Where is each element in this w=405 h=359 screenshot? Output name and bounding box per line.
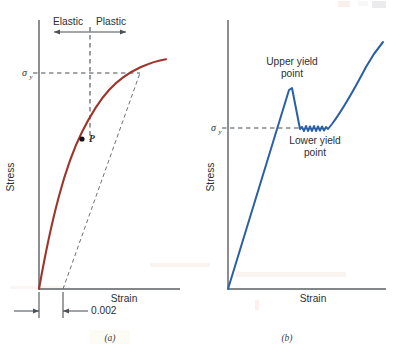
panel-a: Elastic Plastic σ y P Stress Strain (5, 16, 180, 344)
panel-a-plastic-label: Plastic (96, 16, 126, 27)
panel-a-y-axis-label: Stress (5, 163, 16, 192)
stress-strain-figure: Elastic Plastic σ y P Stress Strain (0, 0, 405, 359)
panel-a-caption: (a) (104, 333, 115, 344)
panel-a-offset-value: 0.002 (91, 305, 117, 316)
panel-b-upper-yield-label-line2: point (281, 68, 303, 79)
panel-b-x-axis-label: Strain (300, 293, 327, 304)
panel-b-yield-subscript: y (218, 128, 223, 136)
panel-b-y-axis-label: Stress (205, 163, 216, 192)
panel-b-stress-strain-curve (228, 42, 383, 289)
panel-a-offset-line (63, 73, 140, 289)
panel-b: σ y Upper yield point Lower yield point … (205, 20, 386, 344)
panel-a-yield-symbol: σ (22, 67, 28, 78)
panel-a-point-p-label: P (89, 134, 95, 144)
panel-b-yield-symbol: σ (211, 122, 217, 133)
panel-a-x-axis-label: Strain (111, 293, 138, 304)
panel-a-offset-dimension (14, 292, 88, 318)
panel-a-point-p-marker (79, 136, 84, 141)
panel-b-lower-yield-label-line1: Lower yield (289, 135, 341, 146)
panel-b-lower-yield-label-line2: point (304, 147, 326, 158)
panel-b-upper-yield-label-line1: Upper yield (266, 56, 318, 67)
panel-b-caption: (b) (281, 333, 292, 344)
panel-a-elastic-label: Elastic (53, 16, 83, 27)
panel-a-yield-subscript: y (29, 73, 34, 81)
panel-a-stress-strain-curve (39, 59, 166, 289)
